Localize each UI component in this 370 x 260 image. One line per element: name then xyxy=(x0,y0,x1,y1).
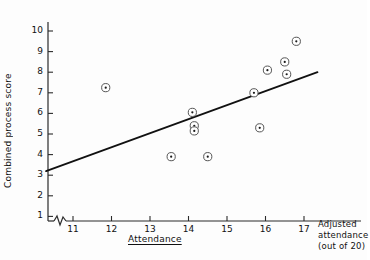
x-axis-tick-label: 14 xyxy=(179,224,199,234)
x-axis-tick-label: 11 xyxy=(63,224,83,234)
x-axis-tick-label: 13 xyxy=(140,224,160,234)
x-axis-tick-label: 17 xyxy=(294,224,314,234)
data-point-marker xyxy=(102,84,110,92)
data-point-marker xyxy=(283,70,291,78)
y-axis-tick-label: 4 xyxy=(24,149,43,159)
x-axis-secondary-title-line1: Adjusted xyxy=(318,219,357,229)
data-point-marker xyxy=(256,124,264,132)
x-axis-title: Attendance xyxy=(128,234,182,244)
x-axis-secondary-title-line3: (out of 20) xyxy=(318,241,365,251)
x-axis-tick-label: 16 xyxy=(256,224,276,234)
y-axis-title: Combined process score xyxy=(3,56,16,206)
x-axis-secondary-title-line2: attendance xyxy=(318,230,368,240)
data-point-marker xyxy=(188,108,196,116)
y-axis-tick-label: 10 xyxy=(24,25,43,35)
y-axis-tick-label: 7 xyxy=(24,87,43,97)
data-point-marker xyxy=(190,127,198,135)
x-axis-tick-label: 15 xyxy=(217,224,237,234)
y-axis-tick-label: 2 xyxy=(24,190,43,200)
x-axis-secondary-title: Adjusted attendance (out of 20) xyxy=(318,219,370,252)
data-point-marker xyxy=(281,58,289,66)
data-point-marker xyxy=(250,89,258,97)
trend-line xyxy=(46,72,317,171)
axis-ticks-group xyxy=(48,31,304,221)
y-axis-tick-label: 8 xyxy=(24,66,43,76)
y-axis-tick-label: 3 xyxy=(24,169,43,179)
y-axis-tick-label: 9 xyxy=(24,46,43,56)
y-axis-tick-label: 1 xyxy=(24,210,43,220)
data-points-group xyxy=(102,37,301,161)
axes-group xyxy=(48,22,361,225)
data-point-marker xyxy=(292,37,300,45)
x-axis-tick-label: 12 xyxy=(102,224,122,234)
data-point-marker xyxy=(167,153,175,161)
y-axis-tick-label: 5 xyxy=(24,128,43,138)
data-point-marker xyxy=(204,153,212,161)
y-axis-tick-label: 6 xyxy=(24,107,43,117)
regression-line xyxy=(46,72,317,171)
data-point-marker xyxy=(263,66,271,74)
